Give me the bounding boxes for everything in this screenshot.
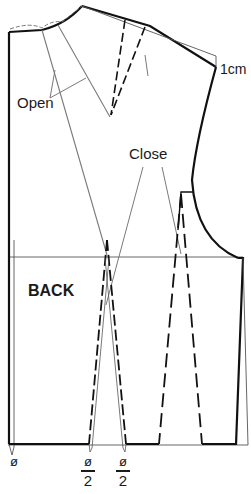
shoulder-line: [82, 6, 216, 67]
dart-right-numerator: ø: [115, 455, 131, 469]
shoulder-dart-left-leg: [111, 20, 125, 115]
center-dart-thin-right: [105, 258, 123, 448]
close-guide-line-upper: [145, 55, 148, 76]
dart-left-numerator: ø: [80, 455, 96, 469]
close-guide-line-right: [162, 167, 181, 254]
center-dart-right-leg: [107, 240, 126, 444]
dart-left-denominator: 2: [80, 473, 96, 489]
shoulder-offset-label: 1cm: [220, 62, 246, 76]
dart-right-denominator: 2: [115, 473, 131, 489]
dart-left-fraction: ø 2: [80, 455, 96, 489]
back-neckline: [9, 6, 82, 32]
original-neckline-dashed: [10, 6, 82, 29]
side-seam-thin: [243, 258, 248, 445]
side-dart-left-leg: [159, 194, 181, 444]
open-label: Open: [17, 95, 54, 110]
piece-name-label: BACK: [28, 283, 74, 299]
close-guide-line-left: [106, 167, 143, 305]
center-dart-thin-left: [92, 258, 109, 448]
center-back-symbol: ø: [7, 455, 21, 468]
back-bodice-pattern-diagram: [0, 0, 251, 494]
open-guide-line-1: [42, 30, 107, 255]
center-dart-left-leg: [89, 240, 107, 444]
close-label: Close: [129, 146, 167, 161]
armhole-curve: [192, 67, 238, 258]
open-guide-line-2: [58, 25, 110, 117]
side-dart-right-leg: [181, 194, 202, 444]
dart-right-fraction: ø 2: [115, 455, 131, 489]
side-seam: [236, 258, 243, 445]
shoulder-dart-right-leg: [111, 27, 145, 115]
open-indicator: [50, 70, 86, 98]
original-shoulder-line: [82, 6, 216, 67]
